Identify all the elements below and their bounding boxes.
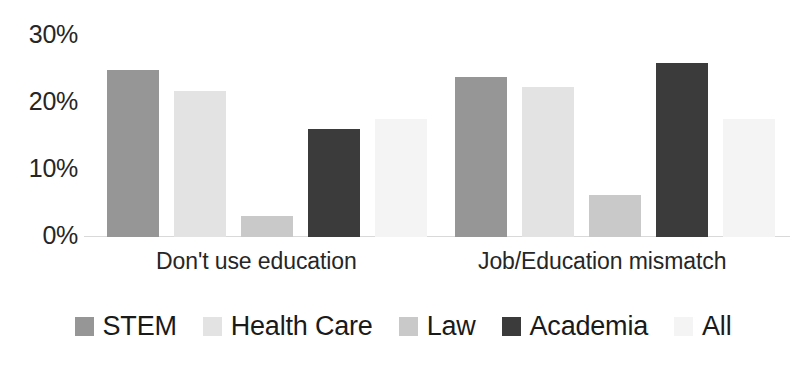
legend-label-law: Law [427, 313, 476, 340]
legend-item-health-care[interactable]: Health Care [203, 313, 373, 340]
bar-group-job-education-mismatch [455, 28, 783, 237]
y-tick-label-30: 30% [29, 22, 78, 47]
bar-chart: 30% 20% 10% 0% Don't use education Job/E… [0, 0, 806, 368]
legend-swatch-stem-icon [75, 317, 94, 336]
bar-academia-1 [656, 63, 708, 237]
y-tick-label-10: 10% [29, 156, 78, 181]
bar-academia-0 [308, 129, 360, 237]
legend-swatch-law-icon [399, 317, 418, 336]
plot-area [84, 28, 790, 237]
legend-item-stem[interactable]: STEM [75, 313, 177, 340]
bar-health-care-1 [522, 87, 574, 237]
legend-label-academia: Academia [530, 313, 648, 340]
chart-legend: STEM Health Care Law Academia All [0, 302, 806, 350]
bar-law-1 [589, 195, 641, 237]
legend-label-stem: STEM [103, 313, 177, 340]
bar-law-0 [241, 216, 293, 237]
legend-swatch-all-icon [674, 317, 693, 336]
bar-stem-0 [107, 70, 159, 237]
legend-item-law[interactable]: Law [399, 313, 476, 340]
legend-swatch-academia-icon [502, 317, 521, 336]
bar-all-0 [375, 119, 427, 237]
bar-stem-1 [455, 77, 507, 237]
legend-item-all[interactable]: All [674, 313, 731, 340]
legend-swatch-health-care-icon [203, 317, 222, 336]
category-label-1: Job/Education mismatch [478, 248, 726, 276]
legend-label-all: All [702, 313, 731, 340]
y-tick-label-0: 0% [42, 223, 78, 248]
y-tick-label-20: 20% [29, 89, 78, 114]
bar-health-care-0 [174, 91, 226, 237]
bar-group-dont-use-education [107, 28, 435, 237]
y-axis: 30% 20% 10% 0% [0, 0, 78, 260]
category-label-0: Don't use education [156, 248, 357, 276]
bar-all-1 [723, 119, 775, 237]
legend-item-academia[interactable]: Academia [502, 313, 648, 340]
legend-label-health-care: Health Care [231, 313, 373, 340]
